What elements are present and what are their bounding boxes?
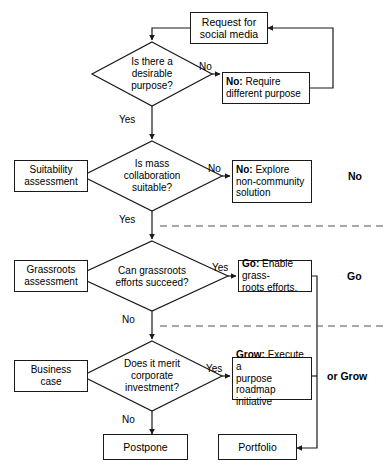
decision-label-grassroots: Can grassroots efforts succeed? [94,265,210,289]
node-request-for-social-media[interactable]: Request for social media [190,12,268,44]
node-grow-execute-purpose-roadmap-initiative[interactable]: Grow: Execute a purpose roadmap initiati… [232,357,312,400]
node-go-enable-grassroots-efforts[interactable]: Go: Enable grass- roots efforts. [238,260,312,292]
node-label-lead: No: [236,164,253,175]
flowchart-canvas: Request for social media No: Require dif… [0,0,389,475]
node-label-lead: Grow: [236,349,265,360]
node-label: Postpone [104,441,187,453]
node-suitability-assessment[interactable]: Suitability assessment [14,160,88,192]
node-label: Portfolio [219,441,296,453]
edge-label-grassroots-yes: Yes [212,262,228,273]
edge-label-invest-yes: Yes [206,363,222,374]
node-label: Go: Enable grass- roots efforts. [239,258,311,293]
decision-label-mass-collaboration: Is mass collaboration suitable? [104,158,200,193]
node-label: Grassroots assessment [15,264,87,288]
edge-label-mass-no: No [208,163,221,174]
node-label: Suitability assessment [15,164,87,188]
node-portfolio[interactable]: Portfolio [218,434,297,460]
decision-label-purpose: Is there a desirable purpose? [107,56,197,91]
node-no-require-different-purpose[interactable]: No: Require different purpose [222,72,310,104]
node-label: No: Require different purpose [223,76,309,100]
node-label: No: Explore non-community solution [233,164,311,199]
node-no-explore-non-community-solution[interactable]: No: Explore non-community solution [232,160,312,203]
edge-request-to-purpose [152,28,190,40]
outcome-label-no: No [348,170,362,182]
node-label-lead: No: [226,76,243,87]
node-business-case[interactable]: Business case [14,360,88,392]
node-label: Request for social media [191,16,267,41]
node-postpone[interactable]: Postpone [103,434,188,460]
edge-label-grassroots-no: No [122,314,135,325]
edge-label-mass-yes: Yes [119,214,135,225]
edge-label-purpose-yes: Yes [119,114,135,125]
outcome-label-go: Go [347,270,362,282]
decision-label-investment: Does it merit corporate investment? [104,358,200,393]
outcome-label-grow: or Grow [327,370,367,382]
node-grassroots-assessment[interactable]: Grassroots assessment [14,260,88,292]
edge-label-purpose-no: No [199,61,212,72]
node-label: Grow: Execute a purpose roadmap initiati… [233,349,311,408]
node-label-lead: Go: [242,258,259,269]
edge-label-invest-no: No [122,414,135,425]
node-label: Business case [15,364,87,388]
